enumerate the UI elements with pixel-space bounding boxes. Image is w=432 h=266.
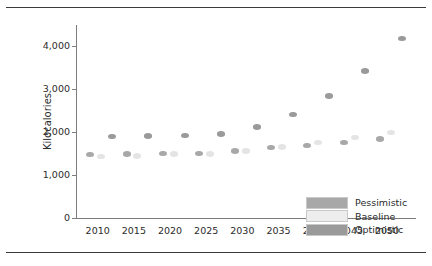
- y-axis-line: [76, 25, 77, 218]
- legend-swatch: [306, 224, 348, 236]
- legend-swatch: [306, 210, 348, 222]
- x-tick-label: 2035: [259, 225, 299, 236]
- x-tick-label: 2010: [78, 225, 118, 236]
- x-tick-label: 2020: [150, 225, 190, 236]
- y-tick-label: 4,000: [8, 41, 70, 51]
- data-point: [231, 148, 239, 154]
- y-axis-labels: 01,0002,0003,0004,000: [0, 20, 70, 225]
- y-tick-label: 3,000: [8, 84, 70, 94]
- figure-bottom-rule: [6, 252, 426, 253]
- data-point: [340, 140, 348, 146]
- data-point: [376, 136, 384, 142]
- y-tick-label: 1,000: [8, 170, 70, 180]
- data-point: [361, 68, 369, 74]
- y-tick-label: 2,000: [8, 127, 70, 137]
- data-point: [267, 145, 275, 151]
- data-point: [133, 153, 141, 159]
- data-point: [144, 133, 152, 139]
- x-tick-label: 2030: [222, 225, 262, 236]
- data-point: [242, 148, 250, 154]
- data-point: [278, 144, 286, 150]
- data-point: [108, 134, 116, 140]
- data-point: [303, 143, 311, 149]
- data-point: [170, 151, 178, 157]
- data-point: [289, 112, 297, 118]
- plot-area: Kilocalories 01,0002,0003,0004,000 20102…: [0, 20, 432, 225]
- legend-item[interactable]: Pessimistic: [306, 196, 424, 210]
- x-tick-label: 2015: [114, 225, 154, 236]
- legend: PessimisticBaselineOptimistic: [306, 196, 424, 237]
- figure-top-rule: [6, 7, 426, 8]
- legend-swatch: [306, 197, 348, 209]
- data-point: [217, 131, 225, 137]
- data-point: [398, 36, 406, 42]
- data-point: [123, 151, 131, 157]
- legend-label: Pessimistic: [355, 197, 407, 208]
- data-point: [181, 133, 189, 139]
- data-point: [206, 151, 214, 157]
- y-tick-label: 0: [8, 213, 70, 223]
- data-point: [86, 152, 94, 158]
- data-point: [314, 140, 322, 146]
- data-point: [159, 151, 167, 157]
- data-point: [97, 154, 105, 160]
- legend-label: Baseline: [355, 211, 395, 222]
- data-point: [253, 124, 261, 130]
- data-point: [195, 151, 203, 157]
- data-point: [387, 130, 395, 136]
- legend-item[interactable]: Optimistic: [306, 223, 424, 237]
- figure: Kilocalories 01,0002,0003,0004,000 20102…: [0, 0, 432, 266]
- data-point: [351, 135, 359, 141]
- legend-item[interactable]: Baseline: [306, 210, 424, 224]
- x-tick-label: 2025: [186, 225, 226, 236]
- data-point: [325, 93, 333, 99]
- legend-label: Optimistic: [355, 224, 403, 235]
